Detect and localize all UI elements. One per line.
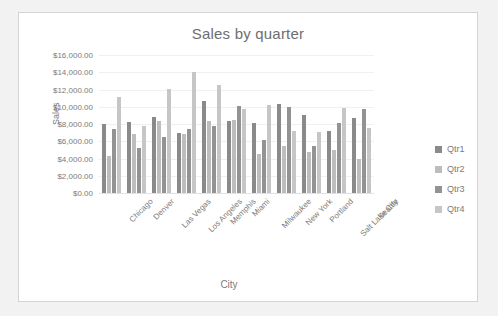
y-axis-tick-label: $0.00 (73, 189, 93, 198)
bar-qtr1[interactable] (327, 131, 331, 193)
x-axis-label: City (19, 279, 439, 290)
bar-group (174, 55, 199, 193)
bar-qtr4[interactable] (117, 97, 121, 193)
bar-qtr3[interactable] (187, 129, 191, 193)
legend-label: Qtr4 (447, 204, 465, 214)
bar-qtr1[interactable] (277, 104, 281, 193)
bar-group (224, 55, 249, 193)
y-axis-tick-label: $6,000.00 (57, 137, 93, 146)
x-axis-tick-label: Denver (151, 197, 176, 222)
plot-area: $0.00$2,000.00$4,000.00$6,000.00$8,000.0… (99, 55, 374, 193)
bar-group (274, 55, 299, 193)
bar-qtr1[interactable] (202, 101, 206, 193)
legend-label: Qtr1 (447, 144, 465, 154)
bar-qtr4[interactable] (267, 105, 271, 193)
bar-group (324, 55, 349, 193)
legend-label: Qtr2 (447, 164, 465, 174)
bar-qtr4[interactable] (217, 85, 221, 193)
bar-qtr4[interactable] (242, 109, 246, 193)
bar-qtr3[interactable] (287, 107, 291, 193)
legend-swatch-icon (435, 206, 442, 213)
bar-qtr4[interactable] (192, 72, 196, 193)
legend-swatch-icon (435, 166, 442, 173)
bar-qtr4[interactable] (367, 128, 371, 193)
bar-group (349, 55, 374, 193)
bar-qtr4[interactable] (342, 108, 346, 193)
legend-item-qtr3[interactable]: Qtr3 (435, 179, 465, 199)
bar-qtr2[interactable] (357, 159, 361, 193)
bar-qtr3[interactable] (362, 109, 366, 193)
bar-qtr1[interactable] (302, 115, 306, 193)
bar-qtr2[interactable] (132, 134, 136, 193)
legend-item-qtr4[interactable]: Qtr4 (435, 199, 465, 219)
y-axis-tick-label: $10,000.00 (53, 102, 93, 111)
bar-qtr3[interactable] (137, 148, 141, 193)
legend-label: Qtr3 (447, 184, 465, 194)
chart-container: Sales by quarter Sales $0.00$2,000.00$4,… (18, 12, 478, 302)
chart-legend: Qtr1Qtr2Qtr3Qtr4 (435, 139, 465, 219)
y-axis-tick-label: $2,000.00 (57, 171, 93, 180)
bar-group (299, 55, 324, 193)
bar-qtr4[interactable] (317, 132, 321, 193)
bar-qtr2[interactable] (282, 146, 286, 193)
bar-qtr2[interactable] (307, 152, 311, 193)
legend-swatch-icon (435, 146, 442, 153)
bar-qtr3[interactable] (212, 126, 216, 193)
bar-qtr3[interactable] (112, 129, 116, 193)
y-axis-tick-label: $14,000.00 (53, 68, 93, 77)
y-axis-tick-label: $8,000.00 (57, 120, 93, 129)
bar-qtr3[interactable] (237, 106, 241, 193)
bar-qtr2[interactable] (332, 150, 336, 193)
legend-item-qtr2[interactable]: Qtr2 (435, 159, 465, 179)
bar-group (249, 55, 274, 193)
bar-qtr4[interactable] (167, 89, 171, 193)
legend-swatch-icon (435, 186, 442, 193)
gridline (99, 193, 374, 194)
bar-qtr1[interactable] (227, 121, 231, 193)
bar-group (99, 55, 124, 193)
chart-title: Sales by quarter (19, 25, 477, 42)
bar-qtr1[interactable] (177, 133, 181, 193)
bar-qtr1[interactable] (252, 123, 256, 193)
legend-item-qtr1[interactable]: Qtr1 (435, 139, 465, 159)
bar-qtr2[interactable] (157, 121, 161, 193)
bar-qtr1[interactable] (102, 124, 106, 193)
bar-qtr2[interactable] (107, 156, 111, 193)
bar-qtr1[interactable] (127, 122, 131, 193)
y-axis-tick-label: $12,000.00 (53, 85, 93, 94)
bar-qtr2[interactable] (257, 154, 261, 193)
bar-qtr3[interactable] (337, 123, 341, 193)
bar-qtr2[interactable] (232, 120, 236, 193)
y-axis-tick-label: $16,000.00 (53, 51, 93, 60)
bar-qtr3[interactable] (162, 137, 166, 193)
y-axis-tick-label: $4,000.00 (57, 154, 93, 163)
x-axis-tick-label: Chicago (127, 197, 154, 224)
x-axis-tick-label: Las Vegas (179, 197, 212, 230)
bar-qtr1[interactable] (352, 118, 356, 193)
bar-group (124, 55, 149, 193)
bar-qtr3[interactable] (262, 140, 266, 193)
bar-qtr1[interactable] (152, 117, 156, 193)
bar-group (149, 55, 174, 193)
bar-qtr2[interactable] (182, 134, 186, 193)
bar-qtr3[interactable] (312, 146, 316, 193)
bar-qtr2[interactable] (207, 121, 211, 193)
bar-qtr4[interactable] (292, 131, 296, 193)
bar-group (199, 55, 224, 193)
bar-qtr4[interactable] (142, 126, 146, 193)
